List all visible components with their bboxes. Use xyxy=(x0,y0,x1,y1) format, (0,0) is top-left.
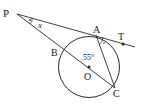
point-t xyxy=(121,42,124,45)
chord-ac xyxy=(96,35,115,88)
label-p: P xyxy=(3,7,9,19)
angle-x-arc xyxy=(30,18,32,24)
label-b: B xyxy=(51,47,58,58)
label-a: A xyxy=(93,24,101,35)
geometry-figure: P A T B O C x 55° xyxy=(0,0,143,108)
label-t: T xyxy=(118,31,124,42)
label-55-degrees: 55° xyxy=(83,53,94,62)
label-o: O xyxy=(84,71,91,82)
label-c: C xyxy=(113,88,120,99)
angle-x-mark xyxy=(29,19,31,21)
secant-line-pbc xyxy=(17,14,115,88)
point-o xyxy=(88,66,91,69)
angle-a-mark xyxy=(103,42,105,44)
label-x: x xyxy=(37,20,42,30)
